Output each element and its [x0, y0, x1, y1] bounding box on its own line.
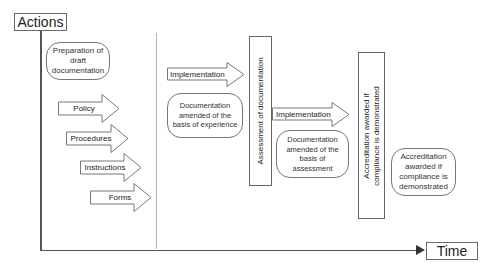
procedures-arrow: Procedures — [66, 124, 129, 153]
implementation-arrow-1: Implementation — [167, 62, 245, 87]
documentation-experience-box: Documentation amended of the basis of ex… — [167, 93, 243, 138]
accreditation-outcome-box: Accreditation awarded if compliance is d… — [391, 148, 456, 196]
policy-label: Policy — [73, 104, 94, 113]
time-axis-label: Time — [426, 242, 478, 260]
documentation-assessment-text: Documentation amended of the basis of as… — [281, 135, 344, 173]
accreditation-bar-line1: Accreditation awarded if — [362, 86, 372, 186]
procedures-label: Procedures — [71, 134, 112, 143]
x-axis-line — [40, 250, 418, 252]
time-label-text: Time — [437, 243, 468, 259]
implementation-2-label: Implementation — [276, 110, 331, 119]
actions-axis-label: Actions — [14, 13, 67, 31]
implementation-1-label: Implementation — [170, 70, 225, 79]
x-axis-arrowhead-icon — [416, 245, 425, 255]
accreditation-bar-text: Accreditation awarded if compliance is d… — [362, 86, 382, 186]
accreditation-outcome-text: Accreditation awarded if compliance is d… — [396, 152, 451, 192]
instructions-label: Instructions — [85, 163, 126, 172]
assessment-bar: Assessment of documentation — [249, 36, 272, 186]
accreditation-bar-line2: compliance is demonstrated — [372, 86, 382, 186]
assessment-text: Assessment of documentation — [256, 57, 266, 164]
preparation-box: Preparation of draft documentation — [46, 42, 110, 80]
accreditation-bar: Accreditation awarded if compliance is d… — [358, 52, 385, 219]
policy-arrow: Policy — [58, 94, 120, 123]
documentation-assessment-box: Documentation amended of the basis of as… — [276, 130, 349, 178]
instructions-arrow: Instructions — [80, 153, 142, 182]
forms-label: Forms — [109, 193, 132, 202]
actions-label-text: Actions — [18, 14, 64, 30]
y-axis-line — [40, 30, 42, 251]
forms-arrow: Forms — [90, 183, 152, 212]
implementation-arrow-2: Implementation — [272, 102, 350, 127]
preparation-text: Preparation of draft documentation — [51, 46, 105, 76]
phase-separator — [156, 33, 157, 249]
documentation-experience-text: Documentation amended of the basis of ex… — [172, 101, 238, 130]
